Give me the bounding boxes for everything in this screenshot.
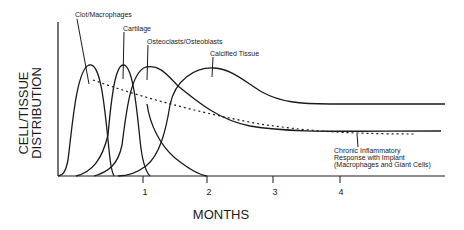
y-axis-title-line2: DISTRIBUTION: [29, 67, 44, 159]
leader-clot: [77, 19, 89, 84]
x-tick-label-3: 3: [272, 187, 277, 197]
label-chronic-line3: (Macrophages and Giant Cells): [334, 161, 431, 169]
curve-osteo-decline: [147, 104, 207, 176]
leader-cartilage: [123, 32, 124, 79]
curve-chronic-inflammatory: [93, 80, 416, 134]
label-clot-macrophages: Clot/Macrophages: [75, 11, 132, 19]
label-calcified-tissue: Calcified Tissue: [210, 50, 259, 57]
leader-chronic: [357, 134, 358, 147]
x-tick-label-2: 2: [206, 187, 211, 197]
label-cartilage: Cartilage: [123, 25, 151, 33]
x-ticks: [143, 176, 340, 183]
label-osteoclasts-osteoblasts: Osteoclasts/Osteoblasts: [147, 38, 223, 45]
curve-cartilage: [76, 65, 150, 176]
curve-clot-macrophages: [58, 65, 114, 176]
leader-osteo: [147, 45, 148, 80]
x-axis-title: MONTHS: [193, 207, 250, 222]
tissue-response-diagram: 1 2 3 4 MONTHS CELL/TISSUE DISTRIBUTION …: [0, 0, 464, 230]
x-tick-label-1: 1: [142, 187, 147, 197]
x-tick-label-4: 4: [338, 187, 343, 197]
leader-calcified: [212, 57, 213, 77]
